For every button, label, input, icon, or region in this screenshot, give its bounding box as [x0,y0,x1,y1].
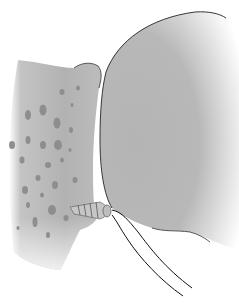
anchor-illustration [0,0,239,305]
bone-block [9,60,101,270]
